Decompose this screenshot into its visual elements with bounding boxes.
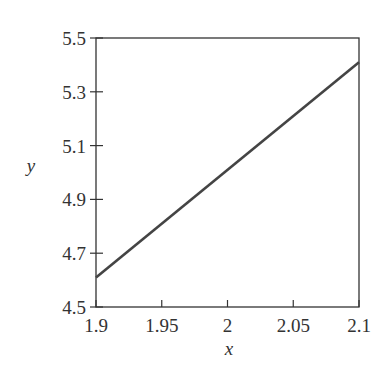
- plot-frame: [96, 38, 359, 307]
- x-tick-label: 1.9: [84, 315, 108, 336]
- y-tick-label: 4.5: [62, 297, 86, 318]
- y-tick-label: 4.9: [62, 189, 86, 210]
- x-tick-label: 2: [223, 315, 233, 336]
- y-axis-label: y: [25, 155, 36, 176]
- x-tick-label: 2.1: [347, 315, 371, 336]
- y-tick-label: 4.7: [62, 243, 86, 264]
- y-tick-label: 5.5: [62, 28, 86, 49]
- x-tick-label: 2.05: [277, 315, 310, 336]
- y-tick-label: 5.1: [62, 136, 86, 157]
- x-axis-ticks: 1.91.9522.052.1: [84, 300, 371, 336]
- y-tick-label: 5.3: [62, 82, 86, 103]
- x-axis-label: x: [224, 338, 234, 359]
- line-chart: 1.91.9522.052.1 4.54.74.95.15.35.5 x y: [0, 0, 388, 374]
- plot-border: [96, 38, 359, 307]
- data-series: [96, 62, 359, 277]
- x-tick-label: 1.95: [145, 315, 178, 336]
- y-axis-ticks: 4.54.74.95.15.35.5: [62, 28, 103, 318]
- series-line: [96, 62, 359, 277]
